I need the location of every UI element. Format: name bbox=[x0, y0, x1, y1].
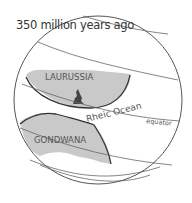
gondwana-label: GONDWANA bbox=[34, 135, 86, 145]
diagram-title: 350 million years ago bbox=[16, 18, 134, 32]
laurussia-label: LAURUSSIA bbox=[45, 72, 93, 82]
equator-label: equator bbox=[146, 117, 172, 128]
